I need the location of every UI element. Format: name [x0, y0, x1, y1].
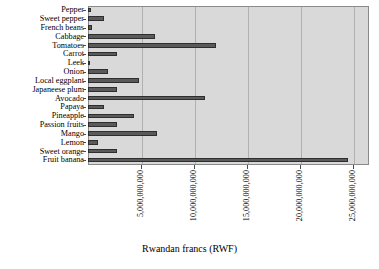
bar-pepper: [88, 8, 91, 13]
bar-row: [88, 77, 369, 86]
bar-row: [88, 68, 369, 77]
bar-sweet-orange: [88, 149, 117, 154]
horizontal-bar-chart: PepperSweet pepperFrench beansCabbageTom…: [0, 0, 379, 269]
bar-tomatoes: [88, 43, 216, 48]
bar-row: [88, 156, 369, 165]
category-label: Lemon: [61, 139, 84, 147]
bar-row: [88, 121, 369, 130]
bar-row: [88, 103, 369, 112]
category-label: Cabbage: [55, 33, 84, 41]
x-tick-label: 10,000,000,000: [190, 170, 198, 221]
bar-lemon: [88, 140, 98, 145]
category-tick-mark: [83, 142, 86, 143]
category-label: Mango: [61, 130, 84, 138]
category-tick-mark: [83, 160, 86, 161]
category-tick-mark: [83, 63, 86, 64]
bar-carrot: [88, 52, 117, 57]
x-tick-mark: [194, 165, 195, 169]
category-tick-mark: [83, 36, 86, 37]
category-tick-mark: [83, 45, 86, 46]
category-tick-mark: [83, 54, 86, 55]
bar-french-beans: [88, 25, 92, 30]
category-label: Japaneese plum: [32, 86, 84, 94]
bar-mango: [88, 131, 157, 136]
x-axis-title: Rwandan francs (RWF): [0, 243, 379, 254]
bar-papaya: [88, 105, 104, 110]
bar-row: [88, 138, 369, 147]
category-axis-labels: PepperSweet pepperFrench beansCabbageTom…: [0, 6, 86, 165]
bar-row: [88, 6, 369, 15]
category-tick-mark: [83, 89, 86, 90]
bar-leek: [88, 61, 90, 66]
bars-layer: [88, 6, 369, 165]
bar-pineapple: [88, 114, 134, 119]
category-label-row: Lemon: [0, 138, 86, 147]
bar-row: [88, 15, 369, 24]
x-tick-label: 15,000,000,000: [243, 170, 251, 221]
bar-row: [88, 85, 369, 94]
category-tick-mark: [83, 151, 86, 152]
category-tick-mark: [83, 10, 86, 11]
category-tick-mark: [83, 72, 86, 73]
category-label-row: Cabbage: [0, 32, 86, 41]
category-tick-mark: [83, 28, 86, 29]
x-tick-mark: [247, 165, 248, 169]
bar-local-eggplant: [88, 78, 139, 83]
bar-sweet-pepper: [88, 16, 104, 21]
bar-fruit-banana: [88, 158, 348, 163]
bar-row: [88, 41, 369, 50]
bar-avocado: [88, 96, 205, 101]
bar-row: [88, 32, 369, 41]
bar-row: [88, 50, 369, 59]
category-label-row: Japaneese plum: [0, 85, 86, 94]
category-tick-mark: [83, 116, 86, 117]
category-label-row: Fruit banana: [0, 156, 86, 165]
x-tick-mark: [141, 165, 142, 169]
x-tick-mark: [353, 165, 354, 169]
category-tick-mark: [83, 98, 86, 99]
bar-row: [88, 147, 369, 156]
bar-onion: [88, 69, 108, 74]
category-label: Local eggplant: [35, 77, 84, 85]
bar-japaneese-plum: [88, 87, 117, 92]
x-tick-mark: [300, 165, 301, 169]
x-axis-tick-labels: 5,000,000,00010,000,000,00015,000,000,00…: [88, 170, 369, 236]
category-tick-mark: [83, 19, 86, 20]
bar-passion-fruits: [88, 122, 117, 127]
category-tick-mark: [83, 81, 86, 82]
category-tick-mark: [83, 107, 86, 108]
bar-row: [88, 94, 369, 103]
category-tick-mark: [83, 134, 86, 135]
category-label: French beans: [41, 24, 84, 32]
x-tick-label: 5,000,000,000: [137, 170, 145, 217]
bar-row: [88, 59, 369, 68]
bar-row: [88, 130, 369, 139]
bar-row: [88, 24, 369, 33]
bar-row: [88, 112, 369, 121]
category-tick-mark: [83, 125, 86, 126]
bar-cabbage: [88, 34, 155, 39]
x-tick-label: 20,000,000,000: [296, 170, 304, 221]
x-tick-label: 25,000,000,000: [349, 170, 357, 221]
category-label: Fruit banana: [43, 156, 84, 164]
